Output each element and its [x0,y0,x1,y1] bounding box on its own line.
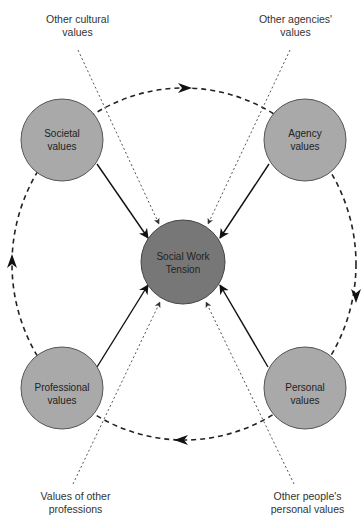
label-other-cultural-values: Other cultural values [20,13,135,39]
node-label-social-work-tension: Social Work Tension [138,250,228,276]
node-label-personal: Personal values [265,381,345,407]
label-other-agencies-values: Other agencies' values [238,13,353,39]
node-label-agency: Agency values [265,127,345,153]
node-label-professional: Professional values [22,381,102,407]
label-other-peoples-personal-values: Other people's personal values [250,490,364,516]
node-label-societal: Societal values [22,127,102,153]
cycle-arrow-top-icon [178,83,192,93]
label-values-of-other-professions: Values of other professions [18,490,133,516]
